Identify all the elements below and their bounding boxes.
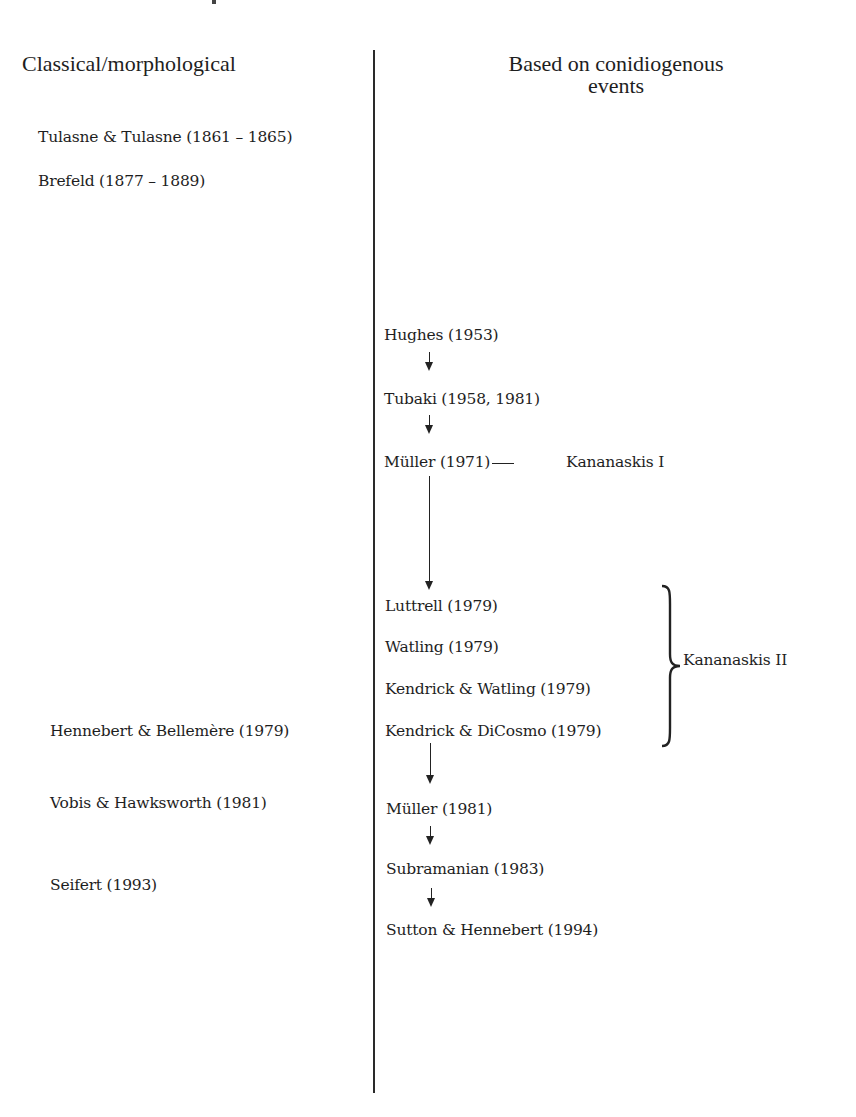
entry-kendrick-watling: Kendrick & Watling (1979) (385, 680, 591, 698)
entry-sutton-hennebert: Sutton & Hennebert (1994) (386, 921, 598, 939)
header-classical-morphological: Classical/morphological (22, 52, 236, 76)
entry-hughes: Hughes (1953) (384, 326, 498, 344)
right-curly-brace-icon (660, 584, 684, 748)
cropped-header-fragment (212, 0, 216, 4)
entry-watling: Watling (1979) (385, 638, 499, 656)
entry-brefeld: Brefeld (1877 – 1889) (38, 172, 205, 190)
label-kananaskis-ii: Kananaskis II (683, 651, 787, 669)
arrow-shaft (430, 743, 431, 777)
header-conidiogenous-line2: events (466, 74, 766, 98)
label-kananaskis-i: Kananaskis I (566, 453, 664, 471)
entry-tubaki: Tubaki (1958, 1981) (384, 390, 540, 408)
arrow-down-icon (426, 775, 434, 784)
entry-tulasne: Tulasne & Tulasne (1861 – 1865) (38, 128, 292, 146)
entry-seifert: Seifert (1993) (50, 876, 157, 894)
entry-subramanian: Subramanian (1983) (386, 860, 544, 878)
arrow-down-icon (425, 581, 433, 590)
entry-hennebert-bellemere: Hennebert & Bellemère (1979) (50, 722, 289, 740)
arrow-shaft-long (429, 476, 430, 583)
arrow-down-icon (425, 362, 433, 371)
arrow-down-icon (425, 425, 433, 434)
arrow-down-icon (427, 898, 435, 907)
entry-luttrell: Luttrell (1979) (385, 597, 498, 615)
arrow-down-icon (426, 836, 434, 845)
entry-vobis-hawksworth: Vobis & Hawksworth (1981) (50, 794, 267, 812)
entry-muller-1971: Müller (1971) (384, 453, 490, 471)
entry-muller-1981: Müller (1981) (386, 800, 492, 818)
entry-kendrick-dicosmo: Kendrick & DiCosmo (1979) (385, 722, 601, 740)
connector-line-kananaskis-i (492, 463, 514, 464)
column-divider (373, 50, 375, 1093)
